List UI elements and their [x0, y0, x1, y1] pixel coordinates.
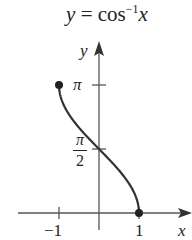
fraction-bar	[73, 150, 87, 151]
x-axis-label: x	[178, 222, 186, 239]
endpoint-dot	[135, 209, 143, 217]
plot-area	[0, 0, 192, 240]
pi-half-numerator: π	[76, 131, 84, 148]
endpoint-dot	[55, 81, 63, 89]
y-tick-label-pi-half: π 2	[73, 132, 87, 169]
y-axis-label: y	[80, 42, 88, 59]
y-tick-label-pi: π	[73, 76, 82, 93]
x-tick-label-1: 1	[135, 222, 144, 239]
x-tick-label-neg1: −1	[44, 222, 62, 239]
pi-half-denominator: 2	[76, 152, 84, 169]
